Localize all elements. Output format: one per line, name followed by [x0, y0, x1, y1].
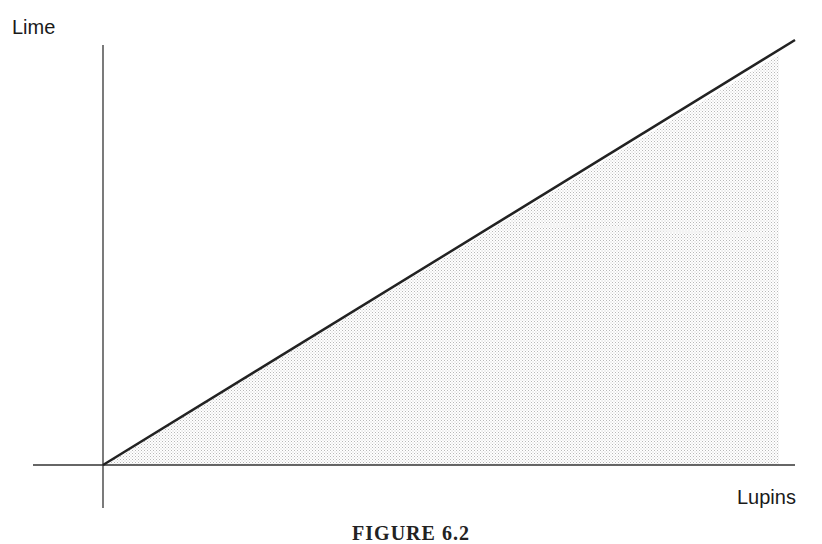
x-axis-label: Lupins	[737, 486, 796, 509]
figure-caption: FIGURE 6.2	[0, 522, 822, 544]
